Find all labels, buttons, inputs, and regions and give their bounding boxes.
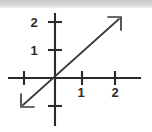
line-y-equals-x [23, 19, 119, 105]
x-axis-label-2: 2 [111, 85, 118, 100]
coordinate-plane-svg: 2 1 1 2 [0, 0, 152, 132]
x-axis-label-1: 1 [77, 85, 84, 100]
y-axis-label-1: 1 [30, 43, 37, 58]
figure-root: 2 1 1 2 [0, 0, 152, 132]
y-axis-label-2: 2 [30, 15, 37, 30]
